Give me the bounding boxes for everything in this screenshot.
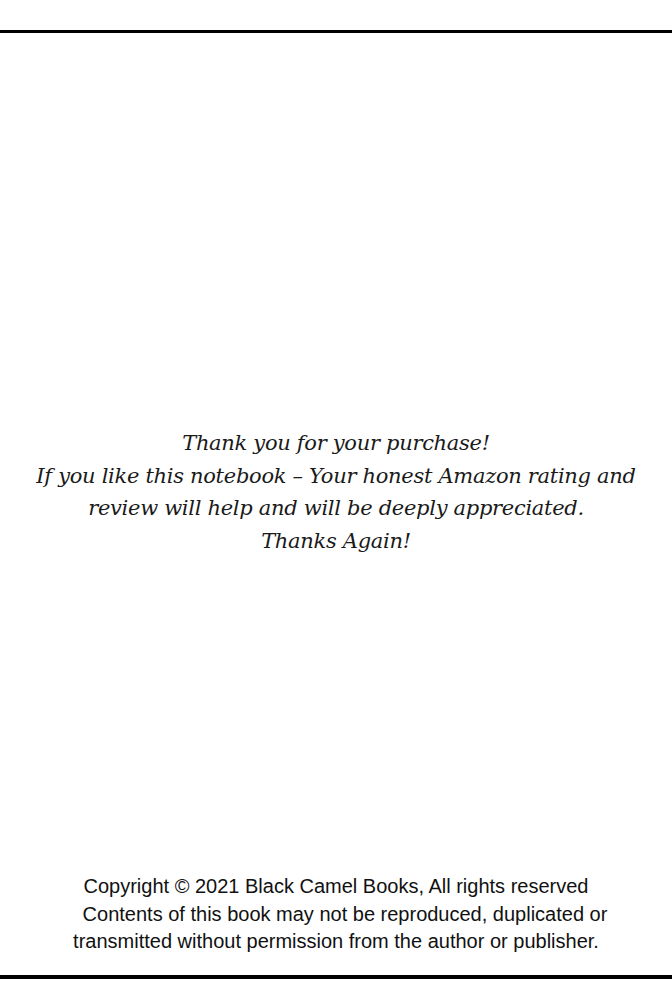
message-line-1: Thank you for your purchase! [0, 427, 672, 460]
top-rule [0, 30, 672, 33]
message-line-2: If you like this notebook – Your honest … [0, 460, 672, 493]
copyright-notice: Copyright © 2021 Black Camel Books, All … [0, 873, 672, 956]
message-line-4: Thanks Again! [0, 525, 672, 558]
copyright-line-1: Copyright © 2021 Black Camel Books, All … [0, 873, 672, 901]
thank-you-message: Thank you for your purchase! If you like… [0, 427, 672, 557]
copyright-line-3: transmitted without permission from the … [0, 928, 672, 956]
bottom-rule [0, 975, 672, 979]
message-line-3: review will help and will be deeply appr… [0, 492, 672, 525]
copyright-line-2: Contents of this book may not be reprodu… [0, 901, 672, 929]
